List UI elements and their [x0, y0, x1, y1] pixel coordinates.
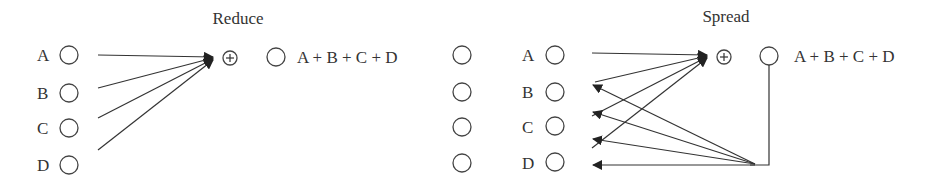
reduce-spread-diagram: Reduce A B C D A + B + C + D Spread A B …: [0, 0, 942, 189]
reduce-arrow-a: [98, 55, 213, 57]
reduce-arrow-c: [98, 59, 213, 118]
spread-label-d: D: [522, 154, 534, 173]
spread-inputs: A B C D: [522, 46, 564, 173]
spread-title: Spread: [702, 7, 750, 26]
spread-arrow-a-in: [592, 53, 707, 55]
reduce-result-label: A + B + C + D: [297, 48, 398, 67]
spread-label-a: A: [522, 46, 535, 65]
reduce-label-d: D: [37, 156, 49, 175]
spread-node-c: [546, 117, 564, 135]
spread-arrow-c-in: [592, 57, 707, 116]
reduce-arrows: [98, 55, 213, 150]
reduce-title: Reduce: [213, 9, 264, 28]
spread-arrow-to-b: [593, 85, 755, 164]
reduce-result-node: [267, 48, 285, 66]
reduce-label-a: A: [37, 46, 50, 65]
spread-arrow-b-in: [595, 56, 707, 82]
reduce-label-b: B: [37, 84, 48, 103]
spread-node-d: [546, 153, 564, 171]
reduce-label-c: C: [37, 119, 48, 138]
spread-node-a: [546, 46, 564, 64]
spare-nodes-column: [453, 46, 471, 172]
spread-result-label: A + B + C + D: [794, 47, 895, 66]
reduce-node-c: [60, 119, 78, 137]
spread-arrow-d-in: [592, 58, 707, 148]
reduce-inputs: A B C D: [37, 46, 78, 175]
spread-arrow-to-c: [593, 112, 755, 164]
spare-node-2: [453, 83, 471, 101]
spare-node-4: [453, 154, 471, 172]
spread-broadcast-trunk: [750, 65, 769, 165]
spread-label-b: B: [522, 83, 533, 102]
spread-broadcast-arrows: [593, 65, 769, 165]
spread-reduce-arrows: [592, 53, 707, 148]
spread-plus-icon: [717, 50, 731, 64]
reduce-node-a: [60, 46, 78, 64]
reduce-node-d: [60, 156, 78, 174]
spread-node-b: [546, 83, 564, 101]
spread-label-c: C: [522, 118, 533, 137]
spare-node-1: [453, 46, 471, 64]
reduce-plus-icon: [223, 51, 237, 65]
spare-node-3: [453, 118, 471, 136]
spread-result-node: [760, 47, 778, 65]
reduce-node-b: [60, 84, 78, 102]
